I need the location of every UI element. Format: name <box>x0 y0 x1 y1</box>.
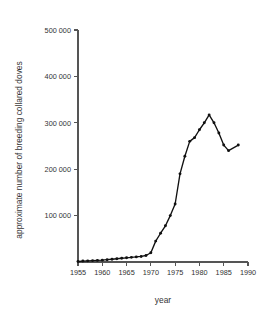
x-tick-label: 1960 <box>94 268 110 277</box>
data-point-marker <box>101 259 104 262</box>
x-axis: 19551960196519701975198019851990 <box>70 262 256 277</box>
x-tick-label: 1965 <box>118 268 134 277</box>
data-series-markers <box>77 113 240 263</box>
data-point-marker <box>164 224 167 227</box>
data-point-marker <box>203 121 206 124</box>
y-tick-label: 400 000 <box>45 72 71 81</box>
y-tick-label: 500 000 <box>45 26 71 35</box>
data-point-marker <box>154 240 157 243</box>
y-tick-group: 100 000200 000300 000400 000500 000 <box>45 26 78 221</box>
data-point-marker <box>198 128 201 131</box>
data-series-line <box>78 115 238 262</box>
data-point-marker <box>208 113 211 116</box>
y-tick-label: 200 000 <box>45 165 71 174</box>
x-tick-group: 19551960196519701975198019851990 <box>70 262 256 277</box>
data-point-marker <box>213 121 216 124</box>
data-point-marker <box>227 149 230 152</box>
x-tick-label: 1955 <box>70 268 86 277</box>
data-point-marker <box>237 144 240 147</box>
x-axis-title: year <box>155 295 172 305</box>
data-point-marker <box>140 255 143 258</box>
data-point-marker <box>222 144 225 147</box>
data-point-marker <box>125 256 128 259</box>
data-point-marker <box>149 251 152 254</box>
data-point-marker <box>111 258 114 261</box>
data-point-marker <box>183 155 186 158</box>
y-axis-title: approximate number of breeding collared … <box>14 61 24 238</box>
y-axis: 100 000200 000300 000400 000500 000 <box>45 26 78 262</box>
x-tick-label: 1980 <box>191 268 207 277</box>
data-point-marker <box>91 259 94 262</box>
data-point-marker <box>159 232 162 235</box>
data-point-marker <box>130 256 133 259</box>
data-point-marker <box>81 260 84 263</box>
data-point-marker <box>169 214 172 217</box>
y-tick-label: 300 000 <box>45 119 71 128</box>
x-tick-label: 1970 <box>143 268 159 277</box>
data-point-marker <box>120 257 123 260</box>
data-point-marker <box>86 259 89 262</box>
data-series-group <box>77 113 240 263</box>
x-tick-label: 1985 <box>216 268 232 277</box>
data-point-marker <box>115 257 118 260</box>
data-point-marker <box>77 260 80 263</box>
chart-container: 100 000200 000300 000400 000500 000 1955… <box>0 0 262 315</box>
data-point-marker <box>217 132 220 135</box>
data-point-marker <box>179 172 182 175</box>
data-point-marker <box>188 140 191 143</box>
y-tick-label: 100 000 <box>45 211 71 220</box>
data-point-marker <box>174 203 177 206</box>
breeding-collared-doves-line-chart: 100 000200 000300 000400 000500 000 1955… <box>0 0 262 315</box>
data-point-marker <box>135 255 138 258</box>
data-point-marker <box>145 254 148 257</box>
x-tick-label: 1975 <box>167 268 183 277</box>
x-tick-label: 1990 <box>240 268 256 277</box>
data-point-marker <box>193 136 196 139</box>
data-point-marker <box>96 259 99 262</box>
data-point-marker <box>106 258 109 261</box>
